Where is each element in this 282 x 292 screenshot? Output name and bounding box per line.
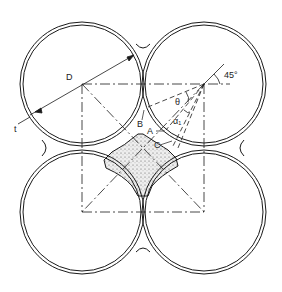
label-B: B	[137, 119, 143, 129]
label-45-degrees: 45°	[224, 70, 238, 80]
label-A: A	[147, 126, 153, 136]
label-alpha1: α₁	[173, 116, 181, 126]
diameter-dimension	[18, 55, 134, 124]
label-thickness: t	[14, 124, 17, 134]
label-diameter: D	[66, 72, 73, 82]
angle-45-indicator	[204, 64, 224, 84]
tube-bundle-diagram: D t 45° θ α₁ A B C	[0, 0, 282, 292]
interstitial-region	[104, 134, 178, 196]
label-theta: θ	[175, 97, 180, 107]
label-C: C	[154, 140, 161, 150]
